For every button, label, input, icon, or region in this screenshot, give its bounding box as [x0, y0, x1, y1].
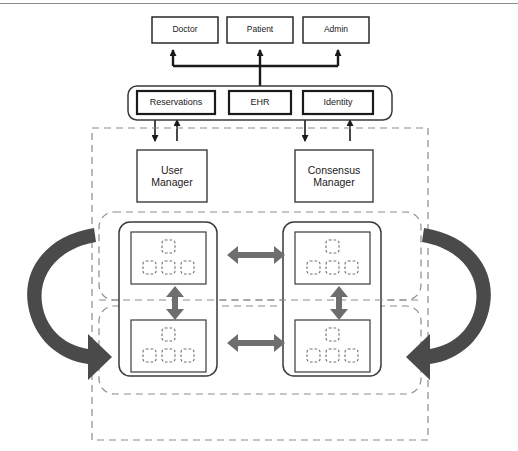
horizontal-sync-bottom: [227, 334, 285, 352]
actor-box-doctor[interactable]: [152, 17, 218, 43]
manager-box-user-manager[interactable]: [137, 150, 207, 202]
ledger-top-right: [295, 232, 370, 284]
replication-arrow-right: [406, 228, 491, 380]
diagram-canvas: [0, 0, 518, 451]
ledger-bottom-right: [295, 320, 370, 372]
ledger-bottom-left: [131, 320, 206, 372]
service-box-reservations[interactable]: [137, 91, 215, 114]
manager-box-consensus-manager[interactable]: [295, 150, 373, 202]
service-box-ehr[interactable]: [229, 91, 291, 114]
actor-box-patient[interactable]: [227, 17, 293, 43]
ledger-top-left: [131, 232, 206, 284]
architecture-diagram: Doctor Patient Admin Reservations EHR Id…: [0, 0, 518, 451]
service-box-identity[interactable]: [303, 91, 373, 114]
horizontal-sync-top: [227, 246, 285, 264]
actor-box-admin[interactable]: [303, 17, 369, 43]
